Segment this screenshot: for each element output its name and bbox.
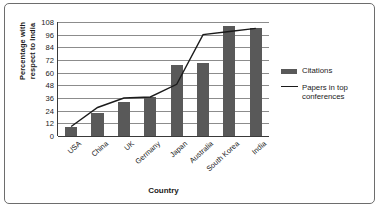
y-axis-tick-label: 0 bbox=[30, 132, 54, 141]
gridline bbox=[58, 136, 269, 137]
line-series-papers-in-top-conferences bbox=[58, 22, 269, 136]
y-axis-tick-label: 84 bbox=[30, 43, 54, 52]
legend-item-citations: Citations bbox=[281, 66, 369, 76]
x-axis-tick-label: Germany bbox=[134, 139, 163, 166]
line-path bbox=[71, 28, 256, 126]
y-axis-tick-label: 36 bbox=[30, 94, 54, 103]
legend-item-label: Papers in top conferences bbox=[302, 83, 348, 102]
chart-frame: Percentage with respect to India 0122436… bbox=[4, 3, 375, 204]
y-axis-tick-label: 96 bbox=[30, 30, 54, 39]
x-axis-tick-label: China bbox=[89, 139, 109, 159]
x-axis-tick-label: UK bbox=[122, 139, 136, 153]
chart-legend: Citations Papers in top conferences bbox=[281, 66, 369, 109]
y-axis-title: Percentage with respect to India bbox=[17, 0, 39, 107]
x-axis-tick-label: USA bbox=[66, 139, 83, 156]
y-axis-tick-label: 24 bbox=[30, 106, 54, 115]
y-axis-tick-label: 72 bbox=[30, 56, 54, 65]
legend-item-papers-in-top-conferences: Papers in top conferences bbox=[281, 83, 369, 102]
y-axis-tick-label: 108 bbox=[30, 18, 54, 27]
x-axis-title: Country bbox=[58, 186, 269, 195]
y-axis-tick-label: 60 bbox=[30, 68, 54, 77]
legend-item-label: Citations bbox=[302, 66, 332, 76]
y-axis-tick-label: 48 bbox=[30, 81, 54, 90]
x-axis-tick-label: India bbox=[250, 139, 268, 156]
legend-bar-swatch-icon bbox=[281, 66, 302, 74]
plot-area: 01224364860728496108 USAChinaUKGermanyJa… bbox=[58, 22, 269, 136]
y-axis-tick-label: 12 bbox=[30, 119, 54, 128]
plot-inner: 01224364860728496108 USAChinaUKGermanyJa… bbox=[58, 22, 269, 136]
legend-line-swatch-icon bbox=[281, 83, 302, 87]
x-axis-tick-label: Japan bbox=[168, 139, 189, 159]
y-axis-title-line-1: Percentage with bbox=[18, 22, 28, 80]
